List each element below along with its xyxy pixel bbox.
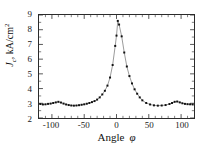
data-point [189,103,191,105]
y-tick-label: 6 [28,55,33,64]
x-tick-label: 100 [175,120,189,130]
data-point [63,103,65,105]
plot-area [38,14,195,119]
data-point [176,101,178,103]
x-axis-title-text: Angle [98,131,125,143]
data-point [117,20,119,22]
y-axis-unit: kA/cm [4,27,15,54]
data-point [112,64,114,66]
y-tick-label: 3 [28,100,33,109]
data-point [109,77,111,79]
data-point [121,35,123,37]
data-point [91,101,93,103]
data-point [78,104,80,106]
data-point [39,103,41,105]
x-tick-label: -50 [78,120,90,130]
data-point [81,104,83,106]
data-point [128,75,130,77]
data-point [86,103,88,105]
data-point [106,85,108,87]
y-axis-title: Jc, kA/cm2 [2,3,20,87]
data-point [83,103,85,105]
data-point [114,45,116,47]
y-axis-subscript: c [10,59,18,62]
data-point [145,102,147,104]
x-axis-symbol-phi: φ [129,131,135,143]
data-point [139,96,141,98]
data-point [75,105,77,107]
x-axis-title: Angleφ [38,131,195,144]
series-line-0 [40,21,192,106]
data-point [153,104,155,106]
data-point [94,100,96,102]
y-tick-label: 5 [28,70,33,79]
data-point [192,103,194,105]
data-point [157,105,159,107]
data-point [88,102,90,104]
data-point [179,101,181,103]
data-point [131,82,133,84]
data-point [104,90,106,92]
y-tick-label: 7 [28,40,33,49]
data-point [184,103,186,105]
y-tick-label: 8 [28,25,33,34]
data-point [47,103,49,105]
data-point [44,103,46,105]
data-point [149,103,151,105]
y-axis-symbol: J [4,62,15,66]
chart-figure: 34567892 Jc, kA/cm2 -100-50050100 Angleφ [0,0,212,149]
data-point [161,105,163,107]
y-tick-label: 9 [28,10,33,19]
data-point [42,103,44,105]
data-point [126,66,128,68]
data-point [116,35,118,37]
data-point [141,99,143,101]
data-point [68,104,70,106]
data-point [174,101,176,103]
data-point [123,52,125,54]
plot-canvas [39,15,194,118]
data-point [181,102,183,104]
data-point [101,93,103,95]
data-point [168,103,170,105]
y-axis-unit-exponent: 2 [3,24,11,28]
data-point [55,101,57,103]
data-point [171,102,173,104]
data-point [96,99,98,101]
y-axis-separator: , [4,54,15,59]
data-point [118,24,120,26]
data-point [165,104,167,106]
data-point [52,102,54,104]
data-point [50,103,52,105]
x-tick-label: 50 [145,120,154,130]
y-tick-label: 4 [28,85,33,94]
data-point [99,96,101,98]
x-tick-label: 0 [114,120,119,130]
x-tick-label: -100 [43,120,60,130]
data-point [136,93,138,95]
data-point [187,103,189,105]
data-point [70,105,72,107]
data-point [57,101,59,103]
data-point [73,105,75,107]
data-point [134,88,136,90]
y-tick-label: 2 [28,115,33,124]
data-point [60,102,62,104]
data-point [65,103,67,105]
